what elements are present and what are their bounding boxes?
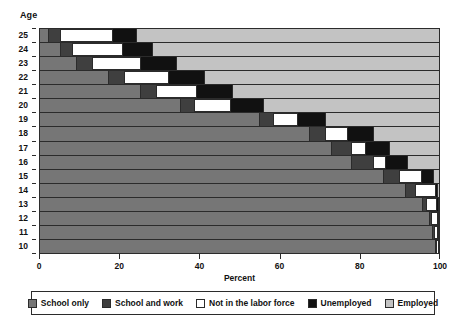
bar-segment-sch-only xyxy=(40,170,383,183)
bar-segment-sch-only xyxy=(40,99,180,112)
plot-area xyxy=(39,28,440,253)
bar-segment-nilf xyxy=(124,71,168,84)
y-tick-mark xyxy=(32,253,36,254)
bar-segment-sch-only xyxy=(40,212,429,225)
bar-segment-sch-only xyxy=(40,142,331,155)
y-tick-mark xyxy=(32,239,36,240)
bar-segment-sch-only xyxy=(40,226,432,239)
bar-segment-emp xyxy=(176,57,439,70)
y-tick-label: 24 xyxy=(19,44,28,54)
y-tick-mark xyxy=(32,70,36,71)
y-tick-mark xyxy=(32,211,36,212)
bar-segment-unemp xyxy=(140,57,176,70)
bar-segment-emp xyxy=(438,212,439,225)
bar-segment-nilf xyxy=(399,170,421,183)
y-tick-label: 12 xyxy=(19,213,28,223)
legend-item[interactable]: Not in the labor force xyxy=(196,298,294,308)
bar-row xyxy=(40,212,439,226)
x-axis-title: Percent xyxy=(39,273,440,283)
bar-segment-nilf xyxy=(273,113,297,126)
y-axis-labels: 25242322212019181716151413121110 xyxy=(0,28,36,253)
legend-swatch-sch-work xyxy=(102,299,111,308)
y-tick-mark xyxy=(32,98,36,99)
bar-row xyxy=(40,184,439,198)
bar-segment-sch-only xyxy=(40,240,435,254)
stacked-bar-chart: Age 25242322212019181716151413121110 Per… xyxy=(0,0,465,329)
x-tick-label: 40 xyxy=(195,261,204,271)
legend-item[interactable]: School only xyxy=(28,298,89,308)
y-tick-label: 23 xyxy=(19,58,28,68)
y-tick-mark xyxy=(32,225,36,226)
x-tick-mark xyxy=(360,254,361,259)
bar-segment-nilf xyxy=(92,57,140,70)
legend-item[interactable]: Employed xyxy=(385,298,439,308)
x-tick-label: 0 xyxy=(37,261,42,271)
x-tick-mark xyxy=(39,254,40,259)
bar-segment-nilf xyxy=(415,184,435,197)
bar-segment-emp xyxy=(438,198,439,211)
x-axis: Percent 020406080100 xyxy=(39,253,440,255)
y-tick-label: 25 xyxy=(19,30,28,40)
bar-segment-unemp xyxy=(230,99,264,112)
bar-segment-nilf xyxy=(325,127,347,140)
bar-segment-emp xyxy=(438,226,439,239)
bar-segment-unemp xyxy=(347,127,373,140)
bar-segment-emp xyxy=(433,170,439,183)
bar-segment-sch-only xyxy=(40,184,405,197)
bar-segment-sch-work xyxy=(60,43,72,56)
bar-segment-sch-only xyxy=(40,113,259,126)
bar-segment-emp xyxy=(204,71,439,84)
y-tick-mark xyxy=(32,169,36,170)
bar-segment-sch-only xyxy=(40,198,422,211)
chart-legend: School onlySchool and workNot in the lab… xyxy=(31,291,435,315)
bar-segment-unemp xyxy=(438,240,439,254)
bar-segment-unemp xyxy=(421,170,433,183)
bar-segment-unemp xyxy=(196,85,232,98)
y-tick-label: 11 xyxy=(19,227,28,237)
bar-segment-emp xyxy=(325,113,439,126)
bar-segment-sch-work xyxy=(383,170,399,183)
y-tick-label: 20 xyxy=(19,100,28,110)
bar-segment-sch-only xyxy=(40,156,351,169)
bar-segment-sch-work xyxy=(309,127,325,140)
bar-segment-nilf xyxy=(156,85,196,98)
y-tick-mark xyxy=(32,42,36,43)
x-tick-label: 20 xyxy=(114,261,123,271)
bar-segment-unemp xyxy=(365,142,389,155)
bar-segment-emp xyxy=(136,29,439,42)
legend-label: Employed xyxy=(398,298,439,308)
bar-segment-emp xyxy=(263,99,439,112)
bar-segment-sch-work xyxy=(48,29,60,42)
bar-segment-sch-work xyxy=(140,85,156,98)
bar-segment-sch-only xyxy=(40,57,76,70)
y-tick-label: 17 xyxy=(19,143,28,153)
bar-segment-unemp xyxy=(168,71,204,84)
x-tick-label: 60 xyxy=(275,261,284,271)
legend-item[interactable]: School and work xyxy=(102,298,183,308)
bar-segment-emp xyxy=(152,43,439,56)
y-tick-mark xyxy=(32,84,36,85)
bar-segment-nilf xyxy=(194,99,230,112)
bar-segment-nilf xyxy=(426,198,436,211)
bar-segment-sch-work xyxy=(405,184,415,197)
legend-label: Unemployed xyxy=(321,298,372,308)
bar-segment-unemp xyxy=(122,43,152,56)
y-tick-mark xyxy=(32,197,36,198)
bar-segment-sch-only xyxy=(40,85,140,98)
y-axis-title: Age xyxy=(20,10,37,20)
legend-label: Not in the labor force xyxy=(209,298,294,308)
bar-segment-emp xyxy=(407,156,439,169)
legend-swatch-sch-only xyxy=(28,299,37,308)
y-tick-label: 19 xyxy=(19,114,28,124)
legend-item[interactable]: Unemployed xyxy=(308,298,372,308)
bar-segment-sch-only xyxy=(40,127,309,140)
y-tick-label: 22 xyxy=(19,72,28,82)
bar-segment-nilf xyxy=(351,142,365,155)
y-tick-mark xyxy=(32,28,36,29)
bar-row xyxy=(40,113,439,127)
bar-row xyxy=(40,142,439,156)
x-tick-label: 80 xyxy=(355,261,364,271)
bar-segment-sch-work xyxy=(331,142,351,155)
bar-segment-sch-work xyxy=(76,57,92,70)
y-tick-mark xyxy=(32,141,36,142)
